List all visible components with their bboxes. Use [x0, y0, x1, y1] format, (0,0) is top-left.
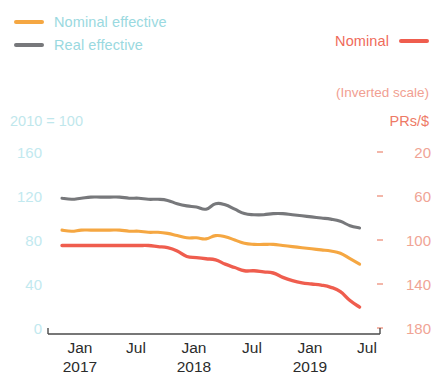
line-real-effective [62, 197, 360, 228]
line-nominal [62, 245, 360, 307]
x-tick-jan-2019: Jan 2019 [280, 338, 340, 376]
x-tick-jul-2019: Jul [337, 338, 397, 357]
x-tick-year: 2019 [280, 357, 340, 376]
x-tick-month: Jul [222, 338, 282, 357]
x-tick-jan-2018: Jan 2018 [164, 338, 224, 376]
series-lines [62, 197, 360, 307]
x-tick-year: 2017 [50, 357, 110, 376]
x-tick-month: Jan [50, 338, 110, 357]
plot-area [0, 0, 437, 383]
x-tick-jan-2017: Jan 2017 [50, 338, 110, 376]
x-tick-month: Jan [280, 338, 340, 357]
x-tick-month: Jan [164, 338, 224, 357]
x-tick-year: 2018 [164, 357, 224, 376]
chart-figure: Nominal effective Real effective Nominal… [0, 0, 437, 383]
x-tick-jul-2018: Jul [222, 338, 282, 357]
x-tick-month: Jul [106, 338, 166, 357]
x-tick-month: Jul [337, 338, 397, 357]
x-tick-jul-2017: Jul [106, 338, 166, 357]
